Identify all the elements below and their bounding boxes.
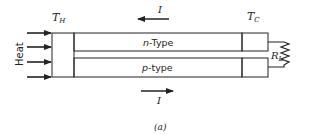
p-type-label: p-type <box>141 62 173 73</box>
load-resistor-label: RL <box>270 50 284 63</box>
heat-arrows <box>27 33 51 77</box>
cold-junction-block-top <box>242 33 268 51</box>
current-top-label: I <box>157 4 163 15</box>
n-type-label: n-Type <box>143 37 174 48</box>
hot-temperature-label: TH <box>52 11 66 25</box>
heat-label: Heat <box>14 42 25 66</box>
current-bottom-label: I <box>156 95 162 106</box>
hot-junction-block <box>52 33 74 77</box>
thermoelectric-generator-diagram: Heat RL TH TC n-Type p-type I I (a) <box>0 0 314 134</box>
cold-temperature-label: TC <box>247 10 260 24</box>
cold-junction-block-bottom <box>242 58 268 77</box>
figure-caption: (a) <box>154 122 167 132</box>
